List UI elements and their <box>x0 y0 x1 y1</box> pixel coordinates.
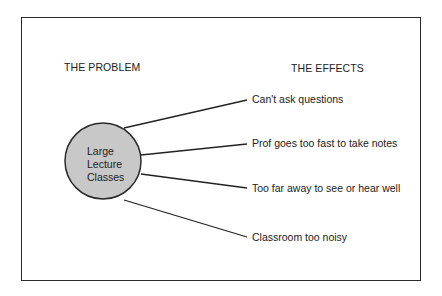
connector-line-2 <box>141 144 247 155</box>
effect-3: Too far away to see or hear well <box>252 182 400 194</box>
problem-label: Large Lecture Classes <box>87 145 124 184</box>
problem-label-line-1: Large <box>87 145 124 158</box>
connector-line-4 <box>124 200 247 237</box>
problem-label-line-3: Classes <box>87 171 124 184</box>
problem-label-line-2: Lecture <box>87 158 124 171</box>
effect-1: Can't ask questions <box>252 93 343 105</box>
heading-problem: THE PROBLEM <box>64 61 140 73</box>
connector-line-3 <box>141 174 247 188</box>
effect-2: Prof goes too fast to take notes <box>252 137 397 149</box>
heading-effects: THE EFFECTS <box>291 62 364 74</box>
connector-line-1 <box>124 100 247 128</box>
effect-4: Classroom too noisy <box>252 231 347 243</box>
